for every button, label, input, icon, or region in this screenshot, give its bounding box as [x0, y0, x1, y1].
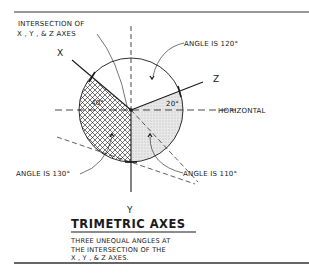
z-axis-label: Z — [213, 74, 219, 84]
trimetric-axes-diagram: INTERSECTION OF X , Y , & Z AXES ANGLE I… — [0, 0, 309, 275]
callout-horizontal: HORIZONTAL — [218, 107, 266, 115]
callout-angle-130: ANGLE IS 130° — [16, 170, 70, 178]
angle-mark-20: 20° — [166, 100, 179, 108]
caption-line1: THREE UNEQUAL ANGLES AT — [70, 237, 171, 245]
callout-angle-110: ANGLE IS 110° — [183, 170, 237, 178]
leader-angle-120 — [153, 43, 184, 76]
y-axis-label: Y — [126, 205, 133, 215]
arrow-120-icon — [150, 76, 154, 79]
callout-angle-120: ANGLE IS 120° — [184, 40, 238, 48]
intersection-dot — [129, 108, 133, 112]
angle-mark-40: 40° — [91, 99, 104, 107]
callout-intersection-line1: INTERSECTION OF — [18, 20, 84, 28]
x-axis-label: X — [57, 48, 63, 58]
callout-intersection-line2: X , Y , & Z AXES — [17, 30, 76, 38]
caption-title: TRIMETRIC AXES — [71, 217, 186, 231]
caption-line3: X , Y , & Z AXES. — [71, 254, 129, 262]
caption-line2: THE INTERSECTION OF THE — [70, 246, 166, 254]
